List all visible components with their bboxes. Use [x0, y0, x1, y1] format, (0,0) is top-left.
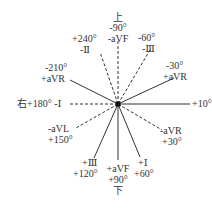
angle-plus240-label: +240°: [72, 34, 97, 44]
lead-minus-avr-label: -aVR: [160, 126, 182, 136]
lead-plus-avr-right-label: +aVR: [163, 72, 187, 82]
axis-plus30: [118, 104, 162, 130]
lead-plus-iii-label: +Ⅲ: [82, 158, 97, 168]
lead-plus-avf-label: +aVF: [100, 164, 136, 174]
direction-bottom-label: 下: [110, 186, 126, 196]
axis-minus60: [118, 50, 150, 104]
angle-plus90-label: +90°: [100, 175, 136, 185]
angle-minus60-label: -60°: [138, 33, 155, 43]
angle-minus90-label: -90°: [100, 23, 136, 33]
angle-minus210-label: -210°: [45, 63, 67, 73]
lead-plus-avr-left-label: +aVR: [41, 74, 65, 84]
left-axis-label: 右+180° -Ⅰ: [17, 99, 61, 109]
angle-plus120-label: +120°: [73, 169, 98, 179]
right-axis-label: +10°左: [192, 99, 212, 109]
angle-plus150-label: +150°: [48, 135, 73, 145]
axis-plus120: [94, 104, 118, 158]
angle-minus30-label: -30°: [166, 61, 183, 71]
center-point: [116, 102, 121, 107]
angle-plus30-label: +30°: [162, 137, 182, 147]
lead-minus-iii-label: -Ⅲ: [142, 44, 155, 54]
lead-minus-avf-label: -aVF: [100, 34, 136, 44]
lead-plus-i-label: +Ⅰ: [138, 158, 148, 168]
lead-minus-ii-label: -Ⅱ: [80, 45, 90, 55]
angle-plus60-label: +60°: [134, 169, 154, 179]
axis-plus150: [76, 104, 118, 128]
lead-minus-avl-label: -aVL: [48, 124, 69, 134]
axis-plus60: [118, 104, 140, 157]
